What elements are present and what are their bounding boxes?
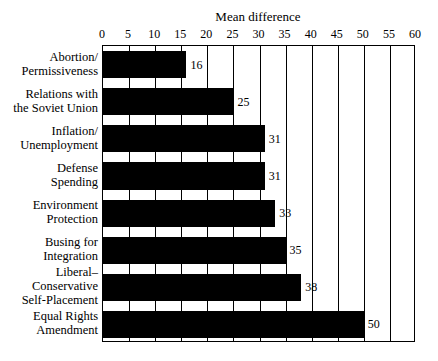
category-label: Liberal– Conservative Self-Placement xyxy=(0,265,98,307)
x-tick-label: 5 xyxy=(115,27,141,41)
category-label: Equal Rights Amendment xyxy=(0,309,98,337)
x-tick-label: 35 xyxy=(272,27,298,41)
bar-value-label: 38 xyxy=(301,280,317,294)
category-label: Environment Protection xyxy=(0,198,98,226)
bar-value-label: 31 xyxy=(265,132,281,146)
bar-row: 38 xyxy=(103,274,414,301)
bar-value-label: 16 xyxy=(186,58,202,72)
bar-row: 50 xyxy=(103,311,414,338)
plot-area: 1625313133353850 xyxy=(102,45,415,342)
bar xyxy=(103,237,286,264)
x-tick-label: 60 xyxy=(402,27,428,41)
bar-chart: Mean difference 051015202530354045505560… xyxy=(0,0,438,361)
category-label: Abortion/ Permissiveness xyxy=(0,50,98,78)
bar-row: 25 xyxy=(103,88,414,115)
x-tick-label: 50 xyxy=(350,27,376,41)
bar-value-label: 31 xyxy=(265,169,281,183)
category-label: Inflation/ Unemployment xyxy=(0,124,98,152)
x-tick-label: 15 xyxy=(167,27,193,41)
bar-value-label: 35 xyxy=(286,243,302,257)
bar-row: 16 xyxy=(103,51,414,78)
x-tick-label: 10 xyxy=(141,27,167,41)
x-tick-label: 20 xyxy=(193,27,219,41)
category-label: Busing for Integration xyxy=(0,235,98,263)
category-label: Defense Spending xyxy=(0,161,98,189)
bar-row: 31 xyxy=(103,162,414,189)
category-axis-labels: Abortion/ PermissivenessRelations with t… xyxy=(0,45,98,342)
x-tick-label: 0 xyxy=(89,27,115,41)
bar-value-label: 33 xyxy=(275,206,291,220)
bar-value-label: 25 xyxy=(233,95,249,109)
chart-title: Mean difference xyxy=(163,9,353,24)
category-label: Relations with the Soviet Union xyxy=(0,87,98,115)
bar-value-label: 50 xyxy=(364,317,380,331)
x-tick-label: 55 xyxy=(376,27,402,41)
x-axis-tick-labels: 051015202530354045505560 xyxy=(0,27,438,43)
x-tick-label: 25 xyxy=(219,27,245,41)
bar-row: 31 xyxy=(103,125,414,152)
bars-layer: 1625313133353850 xyxy=(103,46,414,341)
bar xyxy=(103,125,265,152)
bar xyxy=(103,51,186,78)
bar-row: 35 xyxy=(103,237,414,264)
x-tick-label: 45 xyxy=(324,27,350,41)
bar xyxy=(103,274,301,301)
bar xyxy=(103,311,364,338)
x-tick-label: 30 xyxy=(246,27,272,41)
bar-row: 33 xyxy=(103,200,414,227)
x-tick-label: 40 xyxy=(298,27,324,41)
bar xyxy=(103,200,275,227)
bar xyxy=(103,162,265,189)
bar xyxy=(103,88,233,115)
